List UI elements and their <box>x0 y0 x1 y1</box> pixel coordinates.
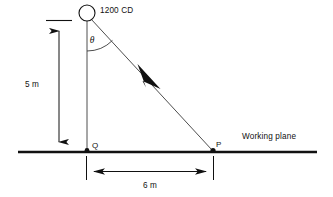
diagram-canvas: 1200 CD θ 5 m 6 m Q P Working plane <box>0 0 333 197</box>
point-p-label: P <box>216 140 221 149</box>
working-plane-label: Working plane <box>242 132 296 141</box>
vertical-dimension-5m <box>46 21 72 143</box>
point-q-label: Q <box>92 141 98 150</box>
lamp-circle-icon <box>79 5 95 21</box>
horizontal-dimension-label: 6 m <box>143 181 157 190</box>
light-ray-line <box>91 19 212 150</box>
point-p-marker <box>210 148 215 153</box>
illumination-diagram: 1200 CD θ 5 m 6 m Q P Working plane <box>0 0 333 197</box>
point-q-marker <box>85 148 90 153</box>
ray-direction-arrow-icon <box>138 64 161 89</box>
horizontal-dimension-6m <box>87 156 214 180</box>
vertical-dimension-label: 5 m <box>25 80 39 89</box>
theta-symbol-label: θ <box>90 35 95 45</box>
lamp-intensity-label: 1200 CD <box>100 6 133 15</box>
